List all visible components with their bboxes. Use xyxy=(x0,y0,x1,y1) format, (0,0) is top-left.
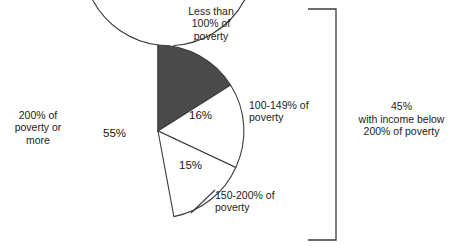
bracket-summary-note: 45% with income below 200% of poverty xyxy=(345,100,458,138)
bracket-annotation xyxy=(308,9,336,240)
slice-value-200-plus: 55% xyxy=(103,127,126,140)
slice-value-100-149: 16% xyxy=(189,109,212,122)
slice-label-less-than-100: Less than 100% of poverty xyxy=(163,5,259,42)
slice-label-150-200: 150-200% of poverty xyxy=(215,189,311,214)
slice-value-150-200: 15% xyxy=(179,159,202,172)
pie-chart-figure: Less than 100% of poverty 100-149% of po… xyxy=(0,0,458,249)
slice-label-100-149: 100-149% of poverty xyxy=(249,99,341,124)
slice-label-200-plus: 200% of poverty or more xyxy=(2,109,74,146)
